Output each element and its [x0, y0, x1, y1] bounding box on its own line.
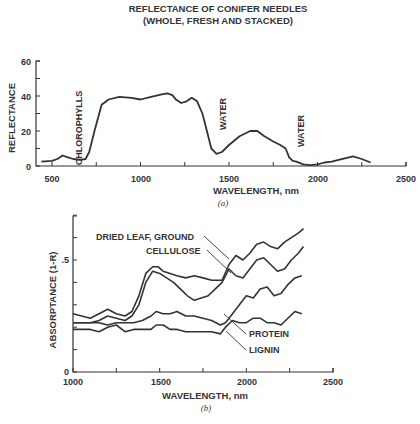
chart-b-xtick-2000: 2000	[237, 377, 257, 387]
chart-b-line-cellulose	[73, 247, 304, 323]
chart-b-xlabel: WAVELENGTH, nm	[162, 390, 248, 401]
chart-a-panel-label: (a)	[218, 198, 229, 208]
annotation-water-1: WATER	[218, 98, 228, 130]
chart-b-xtick-2500: 2500	[323, 377, 343, 387]
chart-a-xtick-2000: 2000	[308, 174, 328, 184]
chart-a-title: REFLECTANCE OF CONIFER NEEDLES	[129, 3, 308, 14]
figure: REFLECTANCE OF CONIFER NEEDLES (WHOLE, F…	[0, 0, 420, 424]
chart-a-ytick-20: 20	[21, 127, 31, 137]
chart-b-xtick-1500: 1500	[151, 377, 171, 387]
legend-lignin: LIGNIN	[249, 345, 280, 355]
chart-a-ytick-0: 0	[26, 162, 31, 172]
chart-a-ytick-60: 60	[21, 57, 31, 67]
chart-a-xtick-2500: 2500	[396, 174, 416, 184]
chart-b-ylabel: ABSORPTANCE (1-R)	[47, 252, 58, 349]
chart-a-reflectance-line	[41, 93, 370, 165]
chart-a-ytick-40: 40	[21, 92, 31, 102]
chart-a-xlabel: WAVELENGTH, nm	[213, 185, 299, 196]
annotation-chlorophylls: CHLOROPHYLLS	[74, 91, 84, 166]
chart-b-xtick-1000: 1000	[63, 377, 83, 387]
chart-a-subtitle: (WHOLE, FRESH AND STACKED)	[143, 15, 293, 26]
chart-a-xtick-1000: 1000	[131, 174, 151, 184]
chart-a-xtick-1500: 1500	[219, 174, 239, 184]
legend-protein: PROTEIN	[249, 329, 289, 339]
chart-b-panel-label: (b)	[201, 403, 212, 413]
annotation-water-2: WATER	[296, 115, 306, 147]
chart-b-line-protein	[73, 276, 302, 325]
legend-dried-leaf: DRIED LEAF, GROUND	[96, 232, 195, 242]
chart-a-ylabel: REFLECTANCE	[6, 83, 17, 153]
chart-b-ytick-0.5: .5	[61, 255, 69, 265]
chart-b-line-dried-leaf-ground	[73, 229, 304, 319]
chart-b-ytick-0: 0	[64, 367, 69, 377]
legend-cellulose-text: CELLULOSE	[146, 246, 201, 256]
chart-b-lines	[73, 229, 304, 334]
chart-a-xtick-500: 500	[44, 174, 59, 184]
